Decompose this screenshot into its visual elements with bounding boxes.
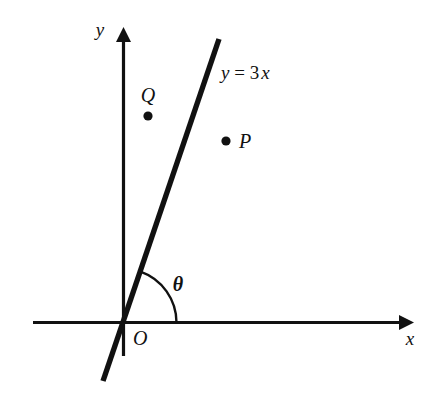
point-p-dot [221, 136, 230, 145]
y-axis-arrow-icon [116, 27, 131, 42]
diagram-canvas: y x O θ P Q y = 3x [0, 0, 434, 400]
x-axis-label: x [405, 328, 415, 349]
line-y-equals-3x [103, 39, 219, 381]
equation-lhs: y [219, 62, 230, 83]
origin-label: O [133, 327, 147, 349]
equation-equals-sign: = [229, 62, 249, 83]
coordinate-diagram-svg: y x O θ P Q y = 3x [0, 0, 434, 400]
y-axis-label: y [94, 19, 105, 40]
line-equation-label: y = 3x [219, 62, 270, 83]
equation-variable: x [260, 62, 270, 83]
point-q-label: Q [141, 84, 156, 106]
angle-theta-label: θ [173, 273, 184, 295]
point-q-dot [143, 111, 152, 120]
equation-coefficient: 3 [250, 62, 260, 83]
point-p-label: P [238, 130, 251, 152]
angle-theta-arc [141, 272, 177, 323]
